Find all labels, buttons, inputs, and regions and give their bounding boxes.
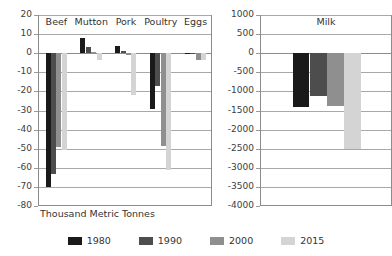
milk-panel: 10005000-500-1000-1500-2000-2500-3000-35… — [214, 0, 392, 226]
y-axis-tick-label: 500 — [214, 29, 254, 38]
y-axis-tick-label: -3000 — [214, 163, 254, 172]
bar-eggs-1990 — [190, 53, 195, 54]
bar-poultry-2000 — [161, 53, 166, 146]
legend-swatch-icon — [139, 237, 153, 245]
meat-panel-category-labels: BeefMuttonPorkPoultryEggs — [39, 15, 211, 32]
y-axis-tick-label: -30 — [0, 106, 32, 115]
bar-beef-2000 — [56, 53, 61, 147]
y-axis-tick-label: 20 — [0, 10, 32, 19]
gridline — [39, 205, 211, 206]
gridline — [39, 187, 211, 188]
legend-label: 1990 — [158, 236, 182, 246]
bar-mutton-1990 — [86, 47, 91, 54]
bar-poultry-1990 — [155, 53, 160, 85]
bar-milk-2000 — [327, 53, 344, 106]
y-axis-tick-label: -60 — [0, 163, 32, 172]
legend-item-2015[interactable]: 2015 — [281, 236, 324, 246]
legend-label: 2000 — [229, 236, 253, 246]
y-axis-tick-label: -4000 — [214, 201, 254, 210]
bar-eggs-2015 — [201, 53, 206, 60]
gridline — [261, 205, 391, 206]
bar-poultry-2015 — [166, 53, 171, 170]
bar-eggs-1980 — [185, 53, 190, 54]
chart-panels: 20100-10-20-30-40-50-60-70-80 BeefMutton… — [0, 0, 392, 226]
legend-item-1990[interactable]: 1990 — [139, 236, 182, 246]
bar-milk-1990 — [310, 53, 327, 96]
y-axis-tick-label: 1000 — [214, 10, 254, 19]
grouped-bar-chart: 20100-10-20-30-40-50-60-70-80 BeefMutton… — [0, 0, 392, 256]
gridline — [39, 168, 211, 169]
chart-legend: 1980199020002015 — [0, 228, 392, 254]
legend-item-2000[interactable]: 2000 — [210, 236, 253, 246]
bar-beef-2015 — [62, 53, 67, 149]
legend-swatch-icon — [68, 237, 82, 245]
legend-label: 2015 — [300, 236, 324, 246]
bar-poultry-1980 — [150, 53, 155, 108]
y-axis-tick-label: 0 — [214, 48, 254, 57]
y-axis-tick-label: -10 — [0, 67, 32, 76]
y-axis-tick-label: -80 — [0, 201, 32, 210]
y-axis-tick-label: -70 — [0, 182, 32, 191]
gridline — [261, 111, 391, 112]
y-axis-tick-label: -50 — [0, 144, 32, 153]
y-axis-tick-label: -20 — [0, 86, 32, 95]
bar-pork-1990 — [121, 51, 126, 53]
y-axis-tick-label: 10 — [0, 29, 32, 38]
category-label-eggs: Eggs — [178, 17, 212, 27]
gridline — [261, 168, 391, 169]
bar-pork-2015 — [131, 53, 136, 95]
gridline — [39, 34, 211, 35]
y-axis-tick-label: -1500 — [214, 106, 254, 115]
meat-panel-plot-area: BeefMuttonPorkPoultryEggs — [38, 15, 212, 206]
bar-milk-2015 — [344, 53, 361, 149]
y-axis-tick-label: 0 — [0, 48, 32, 57]
legend-swatch-icon — [210, 237, 224, 245]
category-label-mutton: Mutton — [74, 17, 109, 27]
meat-panel: 20100-10-20-30-40-50-60-70-80 BeefMutton… — [0, 0, 212, 226]
milk-panel-title: Milk — [261, 17, 391, 27]
y-axis-tick-label: -2500 — [214, 144, 254, 153]
y-axis-tick-mark — [34, 206, 38, 207]
bar-eggs-2000 — [196, 53, 201, 60]
bar-pork-2000 — [126, 53, 131, 55]
legend-item-1980[interactable]: 1980 — [68, 236, 111, 246]
meat-panel-x-caption: Thousand Metric Tonnes — [40, 208, 155, 219]
gridline — [261, 149, 391, 150]
bar-beef-1990 — [51, 53, 56, 173]
y-axis-tick-label: -3500 — [214, 182, 254, 191]
category-label-pork: Pork — [109, 17, 144, 27]
y-axis-tick-label: -40 — [0, 125, 32, 134]
legend-swatch-icon — [281, 237, 295, 245]
y-axis-tick-label: -2000 — [214, 125, 254, 134]
legend-label: 1980 — [87, 236, 111, 246]
gridline — [261, 34, 391, 35]
gridline — [261, 130, 391, 131]
y-axis-tick-label: -1000 — [214, 86, 254, 95]
gridline — [261, 187, 391, 188]
bar-milk-1980 — [293, 53, 310, 106]
bar-beef-1980 — [46, 53, 51, 187]
category-label-beef: Beef — [39, 17, 74, 27]
bar-mutton-2000 — [91, 52, 96, 53]
bar-mutton-1980 — [80, 38, 85, 53]
milk-panel-plot-area: Milk — [260, 15, 392, 206]
category-label-poultry: Poultry — [143, 17, 178, 27]
bar-pork-1980 — [115, 46, 120, 54]
gridline — [39, 15, 211, 16]
gridline — [261, 15, 391, 16]
y-axis-tick-label: -500 — [214, 67, 254, 76]
y-axis-tick-mark — [256, 206, 260, 207]
bar-mutton-2015 — [97, 53, 102, 60]
